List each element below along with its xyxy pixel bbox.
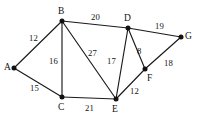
edge-weight-label: 20 xyxy=(91,13,100,22)
edge-weight-label: 27 xyxy=(88,49,97,58)
graph-node xyxy=(114,97,119,102)
edge-weight-label: 19 xyxy=(155,22,164,31)
edge-weight-label: 16 xyxy=(49,57,58,66)
graph-node xyxy=(179,35,184,40)
graph-node xyxy=(143,67,148,72)
graph-edge xyxy=(145,37,181,69)
graph-edge xyxy=(62,97,116,99)
graph-node xyxy=(60,95,65,100)
edge-weight-label: 21 xyxy=(85,104,94,113)
edge-weight-label: 15 xyxy=(30,84,39,93)
node-label: A xyxy=(4,63,11,73)
edge-weight-label: 8 xyxy=(137,47,141,56)
edge-weight-label: 18 xyxy=(164,59,173,68)
node-label: F xyxy=(147,74,152,84)
edge-weight-label: 17 xyxy=(107,57,116,66)
node-label: D xyxy=(124,14,131,24)
node-label: G xyxy=(185,32,192,42)
graph-node xyxy=(60,19,65,24)
edge-weight-label: 12 xyxy=(130,87,139,96)
edge-weight-label: 12 xyxy=(29,34,38,43)
node-label: E xyxy=(112,105,118,115)
node-label: B xyxy=(58,7,65,17)
graph-edge xyxy=(62,21,128,28)
edge-layer xyxy=(14,21,181,99)
graph-node xyxy=(126,26,131,31)
graph-node xyxy=(12,66,17,71)
weighted-graph-diagram: 121516202721178191218ABCDEFG xyxy=(0,0,200,128)
node-label: C xyxy=(58,103,65,113)
